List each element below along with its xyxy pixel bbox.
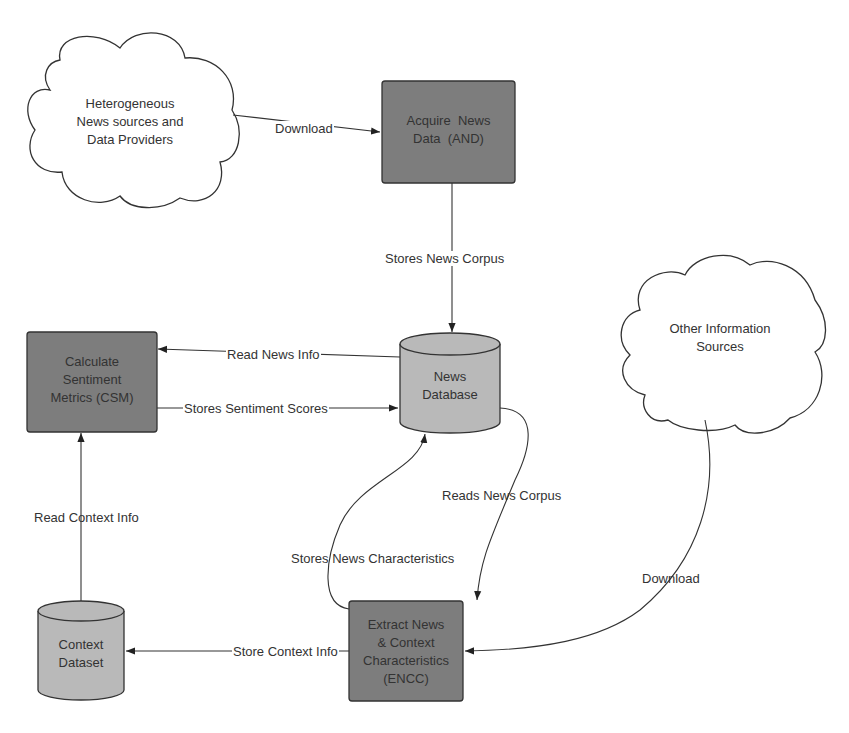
edge-stores-news-characteristics [328, 434, 425, 609]
news-db-label: News Database [400, 366, 500, 406]
other-cloud-label: Other Information Sources [650, 318, 790, 358]
edge-label-download-1: Download [274, 121, 334, 136]
edge-label-download-2: Download [641, 571, 701, 586]
edge-reads-news-corpus [477, 408, 528, 600]
and-box-label: Acquire News Data (AND) [382, 110, 515, 150]
edge-label-read-context-info: Read Context Info [33, 510, 140, 525]
edge-label-stores-news-corpus: Stores News Corpus [384, 251, 505, 266]
context-db-label: Context Dataset [38, 634, 124, 674]
csm-box-label: Calculate Sentiment Metrics (CSM) [27, 352, 157, 408]
edge-label-reads-news-corpus: Reads News Corpus [441, 488, 562, 503]
edge-download-2 [465, 420, 710, 651]
encc-box-label: Extract News & Context Characteristics (… [349, 615, 463, 689]
edge-label-stores-news-characteristics: Stores News Characteristics [290, 551, 455, 566]
edge-label-stores-sentiment-scores: Stores Sentiment Scores [183, 401, 329, 416]
edge-label-store-context-info: Store Context Info [232, 644, 339, 659]
cloud-heterogeneous-label: Heterogeneous News sources and Data Prov… [60, 92, 200, 152]
edge-label-read-news-info: Read News Info [226, 347, 321, 362]
